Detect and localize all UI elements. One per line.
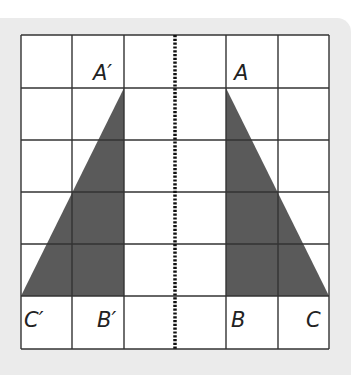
- reflection-diagram: A′ A C′ B′ B C: [0, 0, 357, 375]
- label-b-prime: B′: [97, 308, 116, 332]
- label-a-prime: A′: [91, 61, 112, 85]
- label-a: A: [232, 61, 248, 85]
- label-b: B: [231, 308, 245, 332]
- label-c-prime: C′: [24, 308, 44, 332]
- label-c: C: [306, 308, 321, 332]
